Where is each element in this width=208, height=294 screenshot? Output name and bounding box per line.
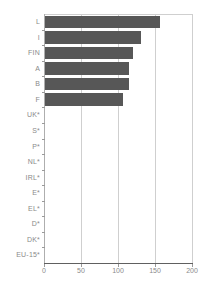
category-tick-mark [42, 185, 45, 186]
bar-I [45, 31, 141, 44]
bar-FIN [45, 47, 133, 60]
bar-F [45, 93, 123, 106]
gridline [155, 14, 156, 263]
x-tick-label: 100 [106, 267, 130, 274]
x-tick-mark [155, 264, 156, 267]
bar-L [45, 16, 160, 29]
category-label: D* [0, 216, 40, 232]
category-label: DK* [0, 232, 40, 248]
x-tick-label: 0 [32, 267, 56, 274]
x-tick-label: 150 [143, 267, 167, 274]
x-tick-label: 50 [69, 267, 93, 274]
category-label: FIN [0, 45, 40, 61]
category-label: S* [0, 123, 40, 139]
category-label: IRL* [0, 170, 40, 186]
plot-border-right [192, 14, 193, 264]
category-tick-mark [42, 201, 45, 202]
category-tick-mark [42, 170, 45, 171]
x-tick-mark [118, 264, 119, 267]
category-tick-mark [42, 139, 45, 140]
category-label: EU-15* [0, 247, 40, 263]
x-tick-label: 200 [180, 267, 204, 274]
category-label: A [0, 61, 40, 77]
x-tick-mark [44, 264, 45, 267]
category-label: B [0, 76, 40, 92]
bar-B [45, 78, 129, 91]
x-tick-mark [81, 264, 82, 267]
category-label: F [0, 92, 40, 108]
category-label: EL* [0, 201, 40, 217]
category-label: I [0, 30, 40, 46]
category-label: E* [0, 185, 40, 201]
category-tick-mark [42, 247, 45, 248]
bar-A [45, 62, 129, 75]
bar-chart: LIFINABFUK*S*P*NL*IRL*E*EL*D*DK*EU-15* 0… [0, 0, 208, 294]
category-label: P* [0, 139, 40, 155]
category-tick-mark [42, 216, 45, 217]
x-tick-mark [192, 264, 193, 267]
category-tick-mark [42, 232, 45, 233]
category-label: UK* [0, 107, 40, 123]
category-tick-mark [42, 154, 45, 155]
category-tick-mark [42, 107, 45, 108]
category-label: L [0, 14, 40, 30]
category-label: NL* [0, 154, 40, 170]
category-tick-mark [42, 123, 45, 124]
